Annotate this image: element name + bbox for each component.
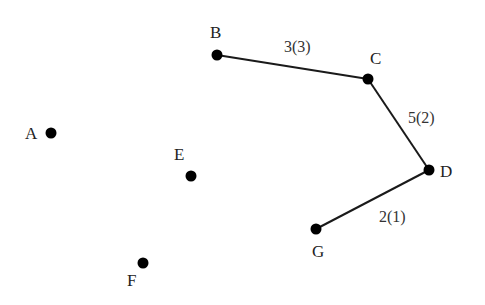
edge-label-c-d: 5(2)	[408, 109, 435, 127]
nodes-layer	[46, 50, 435, 269]
edge-b-c	[217, 55, 368, 79]
node-label-g: G	[312, 242, 324, 261]
graph-diagram: 3(3)5(2)2(1)ABCDEFG	[0, 0, 485, 305]
node-g	[311, 224, 322, 235]
labels-layer: 3(3)5(2)2(1)ABCDEFG	[25, 23, 452, 290]
edge-label-b-c: 3(3)	[284, 38, 311, 56]
node-label-f: F	[127, 271, 136, 290]
node-a	[46, 128, 57, 139]
node-e	[186, 171, 197, 182]
node-d	[424, 165, 435, 176]
edge-d-g	[316, 170, 429, 229]
node-b	[212, 50, 223, 61]
node-c	[363, 74, 374, 85]
node-label-e: E	[174, 145, 184, 164]
node-label-b: B	[210, 23, 221, 42]
edges-layer	[217, 55, 429, 229]
node-label-d: D	[440, 162, 452, 181]
node-f	[138, 258, 149, 269]
node-label-c: C	[370, 49, 381, 68]
edge-label-d-g: 2(1)	[379, 208, 406, 226]
node-label-a: A	[25, 124, 38, 143]
